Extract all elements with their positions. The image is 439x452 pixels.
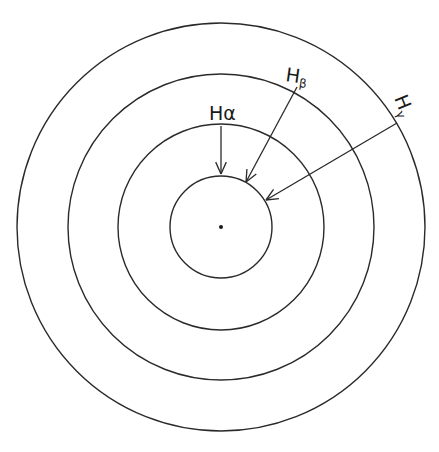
center-dot [219, 225, 223, 229]
h-gamma-arrow [266, 123, 397, 200]
label-subscript: β [298, 76, 308, 91]
arrowhead-stroke [221, 162, 226, 174]
arrows-group [216, 87, 397, 200]
label-main-text: H [209, 102, 223, 124]
labels-group: HαHβHγ [209, 63, 419, 124]
h-beta-arrow [246, 87, 297, 182]
arrowhead-stroke [216, 162, 221, 174]
h-alpha-label: Hα [209, 102, 236, 124]
label-subscript: α [223, 102, 236, 124]
h-alpha-arrow [216, 126, 227, 174]
concentric-rings-diagram: HαHβHγ [0, 0, 439, 452]
